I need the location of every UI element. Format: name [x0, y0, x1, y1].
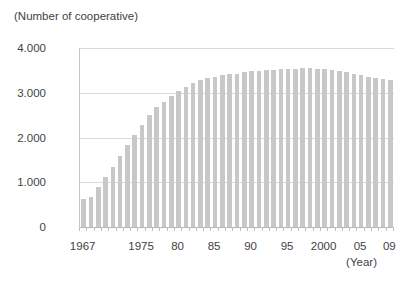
- bar-1973: [125, 145, 130, 227]
- x-axis-tick: [269, 228, 270, 231]
- x-axis-tick: [181, 228, 182, 231]
- bar-2004: [352, 74, 357, 227]
- gridline: [80, 48, 394, 49]
- bar-1982: [191, 83, 196, 227]
- bar-1979: [169, 96, 174, 227]
- x-axis-tick: [313, 228, 314, 231]
- x-axis-tick-label: 09: [367, 239, 405, 253]
- bar-1975: [140, 125, 145, 227]
- x-axis-tick: [378, 228, 379, 231]
- x-axis-tick: [305, 228, 306, 231]
- bar-1984: [205, 78, 210, 227]
- bar-1998: [308, 68, 313, 227]
- x-axis-tick: [159, 228, 160, 231]
- y-axis-tick-label: 3.000: [0, 86, 46, 100]
- bar-1980: [176, 91, 181, 227]
- bar-2002: [337, 71, 342, 227]
- y-axis-tick-label: 4.000: [0, 41, 46, 55]
- x-axis-tick: [240, 228, 241, 231]
- plot-area: [79, 48, 394, 228]
- bar-2005: [359, 75, 364, 227]
- x-axis-tick: [203, 228, 204, 231]
- x-axis-tick: [276, 228, 277, 231]
- bar-1985: [213, 77, 218, 227]
- bar-2006: [366, 77, 371, 227]
- bar-1972: [118, 156, 123, 227]
- bar-1986: [220, 75, 225, 227]
- x-axis-tick: [145, 228, 146, 231]
- x-axis-tick: [152, 228, 153, 231]
- bar-1971: [111, 167, 116, 227]
- x-axis-tick: [108, 228, 109, 231]
- x-axis-tick: [232, 228, 233, 231]
- bar-1990: [249, 71, 254, 227]
- bar-2009: [388, 80, 393, 227]
- bar-2000: [322, 69, 327, 227]
- cooperatives-bar-chart: (Number of cooperative) 01.0002.0003.000…: [0, 0, 405, 282]
- bar-1983: [198, 80, 203, 227]
- bar-1977: [154, 107, 159, 227]
- x-axis-tick: [298, 228, 299, 231]
- bar-2007: [373, 78, 378, 227]
- bar-1991: [257, 71, 262, 227]
- chart-title: (Number of cooperative): [14, 9, 138, 23]
- bar-2008: [381, 79, 386, 227]
- y-axis-tick-label: 0: [0, 220, 46, 234]
- x-axis-tick: [262, 228, 263, 231]
- x-axis-tick: [335, 228, 336, 231]
- x-axis-tick: [86, 228, 87, 231]
- x-axis-tick: [174, 228, 175, 231]
- x-axis-tick: [371, 228, 372, 231]
- x-axis-tick: [167, 228, 168, 231]
- bar-1993: [271, 70, 276, 227]
- x-axis-tick: [225, 228, 226, 231]
- x-axis-tick: [356, 228, 357, 231]
- bar-1997: [300, 68, 305, 227]
- bar-1968: [89, 197, 94, 227]
- x-axis-tick: [327, 228, 328, 231]
- x-axis-tick: [101, 228, 102, 231]
- bar-1967: [81, 199, 86, 227]
- bar-1976: [147, 115, 152, 227]
- bar-1981: [184, 87, 189, 227]
- bar-1988: [235, 74, 240, 227]
- x-axis-tick: [137, 228, 138, 231]
- bar-1989: [242, 72, 247, 227]
- x-axis-tick: [247, 228, 248, 231]
- x-axis-tick: [320, 228, 321, 231]
- bar-1995: [286, 69, 291, 227]
- x-axis-tick: [349, 228, 350, 231]
- bar-1992: [264, 70, 269, 227]
- x-axis-tick: [342, 228, 343, 231]
- y-axis-tick-label: 2.000: [0, 131, 46, 145]
- x-axis-tick-label: 1967: [61, 239, 105, 253]
- x-axis-tick: [386, 228, 387, 231]
- bar-2001: [330, 70, 335, 227]
- x-axis-tick: [116, 228, 117, 231]
- x-axis-tick: [218, 228, 219, 231]
- bar-1996: [293, 69, 298, 227]
- bar-1999: [315, 69, 320, 227]
- y-axis-tick-label: 1.000: [0, 175, 46, 189]
- bar-1970: [103, 177, 108, 227]
- x-axis-tick: [393, 228, 394, 231]
- x-axis-unit-label: (Year): [260, 255, 377, 269]
- x-axis-tick: [189, 228, 190, 231]
- x-axis-tick: [130, 228, 131, 231]
- x-axis-tick: [210, 228, 211, 231]
- bar-1969: [96, 187, 101, 227]
- x-axis-tick: [283, 228, 284, 231]
- bar-1987: [227, 74, 232, 227]
- bar-1974: [132, 135, 137, 227]
- x-axis-tick: [79, 228, 80, 231]
- bar-2003: [344, 72, 349, 227]
- x-axis-tick: [254, 228, 255, 231]
- x-axis-tick: [291, 228, 292, 231]
- bar-1994: [279, 69, 284, 227]
- x-axis-tick: [196, 228, 197, 231]
- x-axis-tick: [364, 228, 365, 231]
- x-axis-tick: [94, 228, 95, 231]
- bar-1978: [162, 102, 167, 227]
- x-axis-tick: [123, 228, 124, 231]
